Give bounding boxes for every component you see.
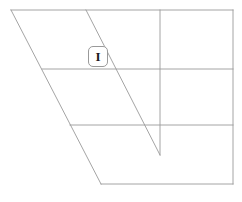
wireframe-segment-group	[11, 10, 233, 184]
text-cursor-indicator[interactable]: I	[88, 46, 108, 67]
diagram-canvas: I	[0, 0, 242, 202]
text-cursor-glyph: I	[95, 50, 100, 63]
line-left-slant-outer	[11, 10, 101, 184]
wireframe-svg	[0, 0, 242, 202]
line-left-slant-inner	[86, 10, 160, 155]
